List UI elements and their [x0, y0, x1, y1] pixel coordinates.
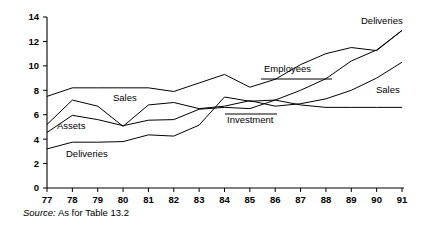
- series-label-employees: Employees: [264, 63, 311, 74]
- series-line-assets: [47, 30, 402, 132]
- x-tick-label: 83: [194, 194, 205, 205]
- x-tick-label: 79: [92, 194, 103, 205]
- chart-figure: 02468101214 7778798081828384858687888990…: [0, 0, 421, 229]
- series-label-sales: Sales: [376, 84, 400, 95]
- series-label-assets: Assets: [57, 120, 86, 131]
- x-tick-label: 90: [371, 194, 382, 205]
- y-tick-label: 8: [34, 85, 39, 96]
- y-tick-label: 0: [34, 182, 39, 193]
- series-line-investment: [47, 97, 402, 149]
- y-tick-label: 14: [28, 11, 39, 22]
- x-tick-label: 85: [245, 194, 256, 205]
- series-label-deliveries: Deliveries: [66, 148, 108, 159]
- x-tick-label: 84: [219, 194, 230, 205]
- series-annotations: SalesAssetsDeliveriesInvestmentEmployees…: [57, 15, 403, 159]
- x-tick-label: 77: [42, 194, 53, 205]
- x-tick-label: 78: [67, 194, 78, 205]
- y-tick-label: 12: [28, 36, 39, 47]
- x-tick-label: 81: [143, 194, 154, 205]
- y-tick-label: 6: [34, 109, 39, 120]
- series-line-deliveries: [47, 30, 402, 96]
- y-tick-label: 10: [28, 60, 39, 71]
- y-tick-label: 2: [34, 158, 39, 169]
- series-label-deliveries: Deliveries: [361, 15, 403, 26]
- x-tick-label: 91: [397, 194, 408, 205]
- series-line-sales: [47, 62, 402, 126]
- y-tick-label: 4: [34, 134, 40, 145]
- x-axis: 777879808182838485868788899091: [42, 188, 408, 205]
- series-label-investment: Investment: [227, 114, 274, 125]
- x-tick-label: 82: [168, 194, 179, 205]
- x-tick-label: 88: [321, 194, 332, 205]
- x-tick-label: 87: [295, 194, 306, 205]
- source-prefix: Source:: [23, 207, 56, 218]
- y-axis: 02468101214: [28, 11, 47, 193]
- data-series-group: [47, 30, 402, 148]
- x-tick-label: 86: [270, 194, 281, 205]
- source-note: Source: As for Table 13.2: [23, 207, 129, 218]
- x-tick-label: 80: [118, 194, 129, 205]
- series-label-sales: Sales: [113, 92, 137, 103]
- source-text: As for Table 13.2: [58, 207, 129, 218]
- line-chart-svg: 02468101214 7778798081828384858687888990…: [0, 0, 421, 229]
- x-tick-label: 89: [346, 194, 357, 205]
